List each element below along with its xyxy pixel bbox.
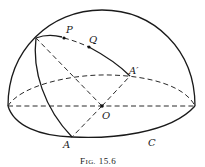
caption-smallcaps: IG.	[85, 158, 95, 166]
great-circle-arc-end	[89, 47, 130, 76]
base-circle-back	[8, 75, 195, 106]
hemisphere-figure: P Q A′ O A C FIG.15.6	[0, 0, 205, 167]
label-c: C	[148, 137, 156, 148]
label-q: Q	[89, 34, 97, 45]
label-a-prime: A′	[128, 65, 139, 76]
caption-number: 15.6	[99, 156, 116, 166]
label-p: P	[65, 24, 73, 35]
radius-o-to-a	[72, 106, 102, 137]
great-circle-arc-pq	[64, 38, 89, 47]
great-circle-arc-start	[36, 36, 62, 38]
point-q	[87, 45, 90, 48]
radius-o-to-a-prime	[102, 76, 130, 106]
meridian-arc	[35, 38, 72, 137]
label-a: A	[62, 139, 70, 150]
label-o: O	[102, 110, 110, 121]
figure-caption: FIG.15.6	[80, 156, 116, 166]
point-o	[100, 104, 104, 108]
point-p	[62, 36, 65, 39]
